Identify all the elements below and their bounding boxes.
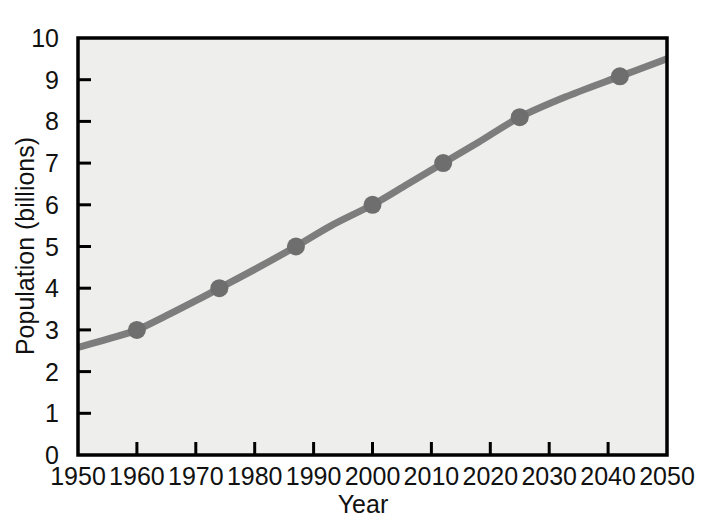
data-point-marker bbox=[287, 238, 305, 256]
y-axis-title: Population (billions) bbox=[11, 137, 39, 355]
data-point-marker bbox=[128, 321, 146, 339]
y-axis-tick-label: 8 bbox=[45, 107, 59, 135]
y-axis-tick-label: 7 bbox=[45, 149, 59, 177]
y-axis-tick-label: 4 bbox=[45, 274, 59, 302]
y-axis-tick-label: 3 bbox=[45, 316, 59, 344]
x-axis-tick-label: 2040 bbox=[580, 462, 636, 490]
chart-svg: 012345678910 195019601970198019902000201… bbox=[0, 0, 726, 531]
y-axis-tick-label: 2 bbox=[45, 358, 59, 386]
x-axis-tick-label: 1950 bbox=[50, 462, 106, 490]
y-axis-tick-label: 1 bbox=[45, 399, 59, 427]
y-axis-tick-label: 10 bbox=[31, 24, 59, 52]
x-axis-tick-label: 2050 bbox=[639, 462, 695, 490]
x-axis-tick-label: 1960 bbox=[109, 462, 165, 490]
y-axis-tick-label: 5 bbox=[45, 233, 59, 261]
x-axis-tick-label: 1990 bbox=[286, 462, 342, 490]
data-point-marker bbox=[364, 196, 382, 214]
y-axis-tick-label: 6 bbox=[45, 191, 59, 219]
y-axis-tick-label: 9 bbox=[45, 66, 59, 94]
data-point-marker bbox=[210, 279, 228, 297]
data-point-marker bbox=[511, 108, 529, 126]
x-axis-tick-label: 2020 bbox=[462, 462, 518, 490]
x-axis-title: Year bbox=[338, 490, 389, 518]
data-point-marker bbox=[434, 154, 452, 172]
x-axis-tick-label: 1970 bbox=[168, 462, 224, 490]
x-axis-tick-label: 2000 bbox=[345, 462, 401, 490]
plot-area-background bbox=[78, 38, 667, 455]
x-axis-tick-label: 1980 bbox=[227, 462, 283, 490]
data-point-marker bbox=[611, 67, 629, 85]
x-axis-tick-label: 2030 bbox=[521, 462, 577, 490]
x-axis-tick-label: 2010 bbox=[404, 462, 460, 490]
population-growth-chart-figure: 012345678910 195019601970198019902000201… bbox=[0, 0, 726, 531]
